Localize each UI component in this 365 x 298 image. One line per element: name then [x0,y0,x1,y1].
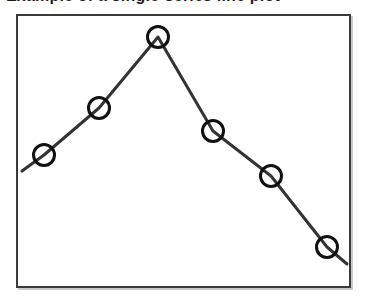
plot-frame [16,14,351,288]
clipped-title-strip: Example of a single-series line plot [0,0,365,7]
figure-root: Example of a single-series line plot [0,0,365,298]
clipped-title-text: Example of a single-series line plot [6,0,280,5]
